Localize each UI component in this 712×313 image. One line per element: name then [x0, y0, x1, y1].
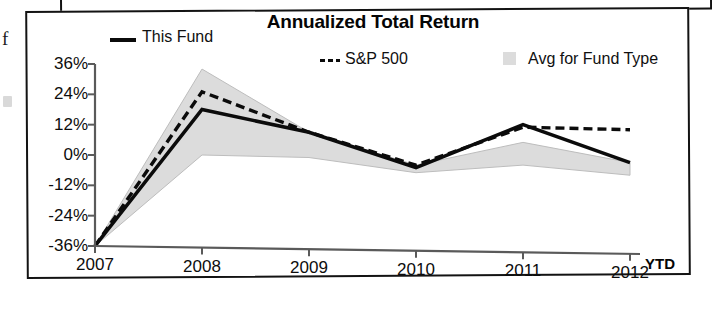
x-axis-tick-label: 2009 [290, 258, 328, 278]
x-axis-tick-label: 2010 [397, 260, 435, 280]
plot-area [95, 64, 640, 246]
x-axis-ytd-label: YTD [645, 255, 675, 272]
x-axis-tick-label: 2008 [183, 257, 221, 277]
chart-plot-svg [95, 64, 640, 246]
x-axis-tick-label: 2011 [505, 261, 542, 281]
avg-fund-type-band [95, 69, 630, 246]
x-axis-tick-label: 2007 [76, 255, 114, 275]
x-axis-tick-label: 2012 [611, 263, 649, 283]
